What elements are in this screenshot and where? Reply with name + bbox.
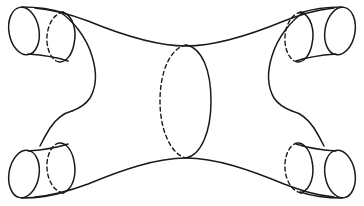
surface-diagram-figure bbox=[0, 0, 364, 206]
surface-diagram-canvas bbox=[0, 0, 364, 206]
